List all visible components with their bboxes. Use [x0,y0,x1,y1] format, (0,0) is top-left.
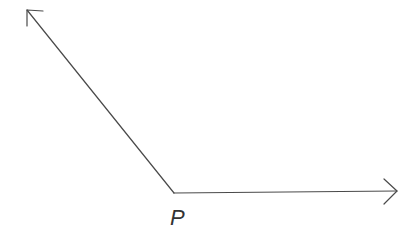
ray-upper-left [27,10,174,193]
angle-diagram [0,0,409,241]
ray-right [174,179,397,204]
vertex-label: P [170,207,185,229]
